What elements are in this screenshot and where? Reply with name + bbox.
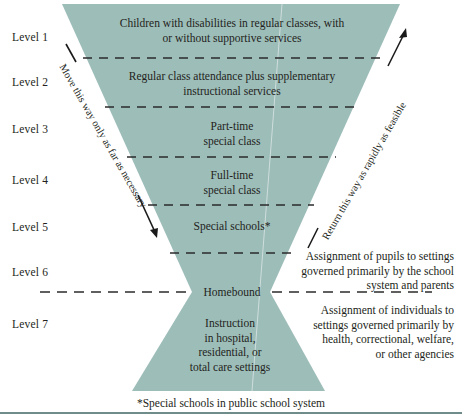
- band-text-6: Homebound: [178, 285, 286, 300]
- right-note-agency: Assignment of individuals to settings go…: [280, 303, 454, 361]
- return-arrow-bottom-tick: [308, 228, 318, 248]
- level-label-2: Level 2: [12, 76, 48, 88]
- footnote-special-schools: *Special schools in public school system: [0, 397, 462, 409]
- right-note-school: Assignment of pupils to settings governe…: [280, 249, 454, 293]
- level-label-3: Level 3: [12, 123, 48, 135]
- diagram-canvas: Level 1 Level 2 Level 3 Level 4 Level 5 …: [0, 0, 462, 416]
- band-text-5: Special schools*: [170, 219, 294, 234]
- move-arrow-top-tick: [66, 44, 76, 62]
- bottom-rule: [0, 412, 462, 414]
- return-arrow-up: [388, 28, 407, 66]
- level-label-7: Level 7: [12, 318, 48, 330]
- level-label-1: Level 1: [12, 31, 48, 43]
- band-text-1: Children with disabilities in regular cl…: [96, 16, 368, 45]
- band-text-2: Regular class attendance plus supplement…: [108, 69, 356, 98]
- band-text-4: Full-time special class: [148, 168, 316, 197]
- level-label-5: Level 5: [12, 221, 48, 233]
- band-text-3: Part-time special class: [140, 119, 324, 148]
- level-label-4: Level 4: [12, 174, 48, 186]
- level-label-6: Level 6: [12, 266, 48, 278]
